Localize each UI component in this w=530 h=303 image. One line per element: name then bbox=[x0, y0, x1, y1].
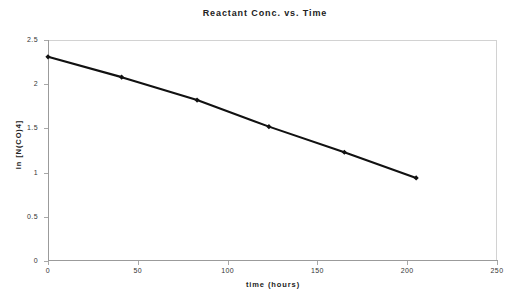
data-point bbox=[266, 124, 271, 129]
data-point bbox=[194, 98, 199, 103]
chart-container: Reactant Conc. vs. Time 050100150200250 … bbox=[0, 0, 530, 303]
series-markers bbox=[45, 54, 418, 180]
data-point bbox=[414, 175, 419, 180]
data-point bbox=[119, 75, 124, 80]
x-axis-label: time (hours) bbox=[48, 280, 498, 289]
series-line bbox=[48, 57, 416, 178]
data-point bbox=[45, 54, 50, 59]
y-axis-label: ln [N(CO)4] bbox=[14, 85, 23, 205]
data-point bbox=[342, 150, 347, 155]
data-series-layer bbox=[0, 0, 530, 303]
